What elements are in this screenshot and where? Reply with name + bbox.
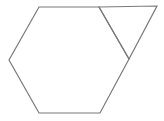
triangle-shape [99,6,157,59]
geometry-diagram [0,0,164,121]
hexagon-shape [9,7,129,113]
